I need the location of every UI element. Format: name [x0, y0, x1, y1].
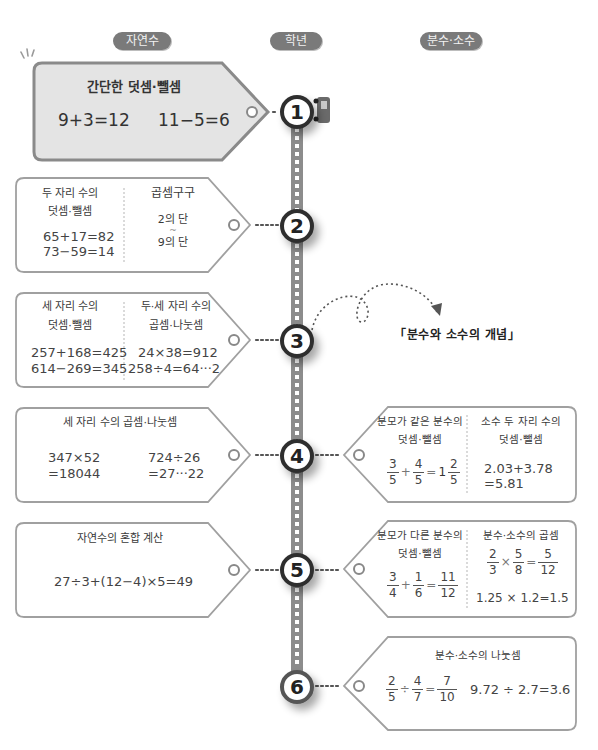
g1-title: 간단한 덧셈·뺄셈 — [34, 76, 234, 95]
g3-col1-eq2: 614−269=345 — [31, 361, 127, 376]
g6-right-title: 분수·소수의 나눗셈 — [380, 647, 576, 664]
g3-col2-title-l1: 두·세 자리 수의 — [126, 298, 226, 315]
g1-eq1: 9+3=12 — [58, 113, 130, 128]
g2-col1-title-l1: 두 자리 수의 — [20, 185, 120, 202]
g4-right-col2-eq1: 2.03+3.78 — [484, 461, 553, 476]
g4-right-col2-title-l1: 소수 두 자리 수의 — [470, 413, 572, 430]
g3-col1-title-l1: 세 자리 수의 — [20, 298, 120, 315]
g4-right-col2-title-l2: 덧셈·뺄셈 — [470, 431, 572, 448]
grade-circle-4: 4 — [282, 441, 312, 471]
grade-circle-3: 3 — [282, 326, 312, 356]
g3-col2-eq1: 24×38=912 — [138, 345, 218, 360]
g2-col1-title-l2: 덧셈·뺄셈 — [20, 203, 120, 220]
g4-left-eq1-l1: 347×52 — [48, 450, 100, 465]
g3-col2-title-l2: 곱셈·나눗셈 — [126, 317, 226, 334]
g1-eq2: 11−5=6 — [158, 113, 230, 128]
g2-col1-eq2: 73−59=14 — [43, 244, 114, 259]
g3-col1-title-l2: 덧셈·뺄셈 — [20, 317, 120, 334]
g6-right-eq2: 9.72 ÷ 2.7=3.6 — [470, 682, 570, 697]
g4-left-eq2-l2: =27···22 — [148, 466, 204, 481]
g3-col2-eq2: 258÷4=64···2 — [128, 361, 220, 376]
g4-right-col2-eq2: =5.81 — [484, 476, 524, 491]
grade-circle-5: 5 — [282, 555, 312, 585]
sparkle-icon — [21, 49, 34, 58]
g5-right-col2-eq2: 1.25 × 1.2=1.5 — [476, 591, 569, 606]
g5-right-col1-eq: 34+16=1112 — [386, 570, 459, 601]
g4-right-col1-title-l2: 덧셈·뺄셈 — [374, 431, 466, 448]
grade-circle-2: 2 — [282, 211, 312, 241]
g3-col1-eq1: 257+168=425 — [31, 345, 127, 360]
grade-circle-6: 6 — [282, 672, 312, 702]
grade-circle-1: 1 — [282, 97, 312, 127]
g6-right-eq1: 25÷47=710 — [385, 674, 458, 705]
g4-left-eq2-l1: 724÷26 — [148, 450, 200, 465]
g4-right-col1-title-l1: 분모가 같은 분수의 — [374, 413, 466, 430]
g2-col2-l2: ~ — [128, 225, 218, 235]
g4-left-title: 세 자리 수의 곱셈·나눗셈 — [20, 414, 220, 431]
g4-left-eq1-l2: =18044 — [48, 466, 100, 481]
g5-right-col1-title-l2: 덧셈·뺄셈 — [374, 545, 466, 562]
fraction-concept-note: 「분수와 소수의 개념」 — [394, 325, 520, 342]
g5-left-title: 자연수의 혼합 계산 — [20, 530, 220, 547]
g2-col2-l3: 9의 단 — [128, 236, 218, 249]
g2-col2-title: 곱셈구구 — [128, 185, 218, 202]
g5-right-col1-title-l1: 분모가 다른 분수의 — [374, 527, 466, 544]
g2-col1-eq1: 65+17=82 — [43, 229, 114, 244]
g5-right-col2-title: 분수·소수의 곱셈 — [470, 527, 572, 544]
dotted-arrow-icon — [312, 284, 437, 330]
truck-icon — [314, 97, 331, 123]
g5-right-col2-eq1: 23×58=512 — [486, 547, 559, 578]
g5-left-eq: 27÷3+(12−4)×5=49 — [54, 574, 193, 589]
g4-right-col1-eq: 35+45=125 — [386, 457, 461, 488]
